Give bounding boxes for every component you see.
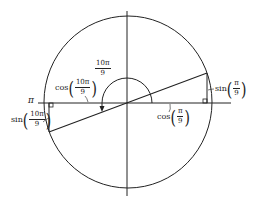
rparen: ) <box>91 78 96 96</box>
cos1-numerator: π <box>177 108 184 117</box>
cos1-denominator: 9 <box>178 117 182 125</box>
sin1-fn: sin <box>215 85 227 93</box>
lparen: ( <box>227 79 232 97</box>
cos1-fn: cos <box>157 113 170 121</box>
cos-10pi9-label: cos(10π9) <box>55 79 97 96</box>
sin10-fn: sin <box>11 116 23 124</box>
sin10-denominator: 9 <box>35 120 39 128</box>
sin1-denominator: 9 <box>234 89 238 97</box>
lparen: ( <box>170 107 175 125</box>
angle-denominator: 9 <box>101 69 105 77</box>
rparen: ) <box>241 79 246 97</box>
cos10-denominator: 9 <box>80 88 84 96</box>
leader-cos10 <box>85 96 88 102</box>
right-angle-marker-right <box>203 99 207 103</box>
angle-label: 10π9 <box>94 60 112 77</box>
diagram-graphics <box>0 0 254 207</box>
cos-pi9-label: cos(π9) <box>157 108 190 125</box>
right-angle-marker-left <box>49 103 53 107</box>
cos10-numerator: 10π <box>75 79 91 88</box>
lparen: ( <box>23 110 28 128</box>
sin-10pi9-label: sin(10π9) <box>11 111 51 128</box>
sin1-numerator: π <box>233 80 240 89</box>
pi-label: π <box>28 96 34 105</box>
angle-numerator: 10π <box>95 60 111 69</box>
sin-pi9-label: sin(π9) <box>215 80 246 97</box>
rparen: ) <box>46 110 51 128</box>
unit-circle-diagram: π 10π9 cos(10π9) sin(10π9) cos(π9) sin(π… <box>0 0 254 207</box>
lparen: ( <box>68 78 73 96</box>
sin10-numerator: 10π <box>29 111 45 120</box>
cos10-fn: cos <box>55 84 68 92</box>
rparen: ) <box>184 107 189 125</box>
